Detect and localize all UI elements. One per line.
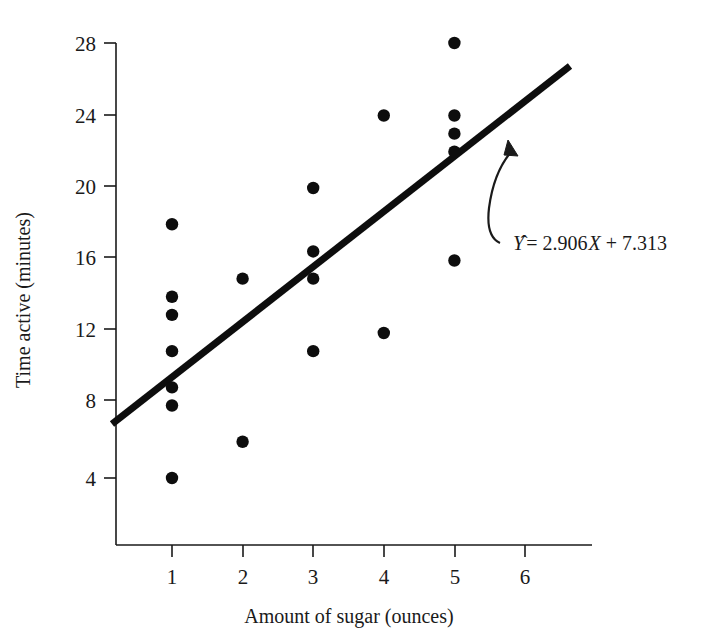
y-tick-label-28: 28 (75, 32, 96, 56)
plot-canvas: 28 24 20 16 12 8 4 1 2 3 4 5 6 Amount of… (0, 0, 701, 639)
data-point (448, 146, 460, 158)
svg-text:Ŷ= 2.906X+ 7.313: Ŷ= 2.906X+ 7.313 (513, 232, 667, 254)
x-tick-label-3: 3 (308, 565, 319, 589)
annotation-arrow-head (504, 140, 518, 156)
regression-equation-annotation: Ŷ= 2.906X+ 7.313 (513, 232, 667, 254)
data-point (307, 272, 319, 284)
data-point (236, 272, 248, 284)
y-tick-label-8: 8 (86, 389, 97, 413)
y-tick-label-12: 12 (75, 318, 96, 342)
y-tick-label-4: 4 (86, 467, 97, 491)
data-point (307, 345, 319, 357)
data-point (166, 472, 178, 484)
y-tick-label-16: 16 (75, 246, 96, 270)
data-point (448, 127, 460, 139)
y-axis-ticks (104, 43, 116, 478)
data-point (378, 327, 390, 339)
data-point (307, 182, 319, 194)
data-point (166, 399, 178, 411)
equation-coefficient-part: = 2.906 (526, 232, 587, 254)
data-point (166, 381, 178, 393)
x-axis-title: Amount of sugar (ounces) (244, 605, 453, 628)
data-point (166, 218, 178, 230)
data-point (166, 309, 178, 321)
scatter-plot-figure: 28 24 20 16 12 8 4 1 2 3 4 5 6 Amount of… (0, 0, 701, 639)
data-point (166, 291, 178, 303)
y-tick-label-20: 20 (75, 175, 96, 199)
x-axis-ticks (172, 545, 525, 557)
x-tick-label-4: 4 (379, 565, 390, 589)
data-point (236, 436, 248, 448)
data-point (448, 109, 460, 121)
data-point (448, 37, 460, 49)
equation-x-variable: X (587, 232, 601, 254)
data-point (166, 345, 178, 357)
x-tick-label-1: 1 (167, 565, 178, 589)
y-tick-label-24: 24 (75, 104, 97, 128)
y-axis-title: Time active (minutes) (12, 212, 35, 388)
x-tick-label-2: 2 (238, 565, 249, 589)
data-point (307, 245, 319, 257)
x-tick-label-5: 5 (450, 565, 461, 589)
data-points-layer (166, 37, 461, 484)
data-point (448, 254, 460, 266)
regression-line (112, 66, 570, 424)
x-tick-label-6: 6 (520, 565, 531, 589)
data-point (378, 109, 390, 121)
annotation-arrow-curve (488, 152, 511, 243)
equation-y-hat-symbol: Y (513, 232, 526, 254)
equation-intercept-part: + 7.313 (606, 232, 667, 254)
